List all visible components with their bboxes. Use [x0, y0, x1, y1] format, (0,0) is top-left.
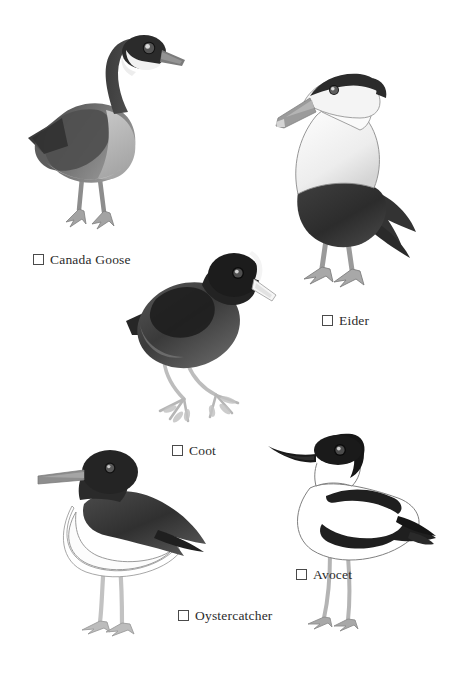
bird-checklist-page: Canada Goose [0, 0, 453, 673]
label-text-avocet: Avocet [313, 568, 352, 582]
bird-illustration-coot [126, 243, 274, 428]
bird-illustration-avocet [268, 432, 443, 632]
label-canada-goose[interactable]: Canada Goose [33, 253, 131, 267]
label-text-eider: Eider [339, 314, 369, 328]
checkbox-avocet[interactable] [296, 569, 307, 580]
label-avocet[interactable]: Avocet [296, 568, 352, 582]
avocet-feet [308, 617, 358, 631]
eider-lower-body [297, 183, 386, 248]
goose-legs [79, 178, 104, 212]
checkbox-eider[interactable] [322, 315, 333, 326]
checkbox-oystercatcher[interactable] [178, 610, 189, 621]
checkbox-canada-goose[interactable] [33, 254, 44, 265]
oystercatcher-feet [82, 621, 134, 636]
label-eider[interactable]: Eider [322, 314, 369, 328]
bird-illustration-oystercatcher [38, 446, 213, 631]
label-text-canada-goose: Canada Goose [50, 253, 131, 267]
label-oystercatcher[interactable]: Oystercatcher [178, 609, 273, 623]
bird-illustration-eider [276, 72, 428, 302]
bird-illustration-canada-goose [22, 28, 182, 243]
goose-feet [66, 209, 114, 229]
avocet-legs [324, 554, 350, 620]
eider-feet [304, 267, 364, 287]
label-text-oystercatcher: Oystercatcher [195, 609, 273, 623]
